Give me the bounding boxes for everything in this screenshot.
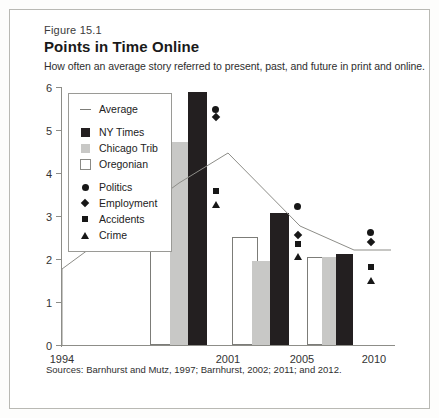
- legend-label-chicago-trib: Chicago Trib: [99, 142, 158, 154]
- diamond-key-icon: [77, 200, 93, 206]
- triangle-key-icon: [77, 232, 93, 239]
- black-square-key-icon: [77, 128, 93, 137]
- marker-2005-crime: [294, 253, 302, 260]
- x-tick-label-2010: 2010: [344, 353, 404, 365]
- marker-2005-accidents: [295, 241, 301, 247]
- legend-label-ny-times: NY Times: [99, 126, 144, 138]
- figure-source-note: Sources: Barnhurst and Mutz, 1997; Barnh…: [46, 364, 342, 375]
- legend-item-ny-times: NY Times: [77, 124, 163, 140]
- legend-item-crime: Crime: [77, 227, 163, 243]
- marker-2001-crime: [212, 201, 220, 208]
- legend-label-crime: Crime: [99, 229, 127, 241]
- figure-number: Figure 15.1: [44, 24, 102, 36]
- legend-label-employment: Employment: [99, 197, 157, 209]
- marker-2010-accidents: [368, 264, 374, 270]
- chart-legend: Average NY Times Chicago Trib Oregonian …: [68, 93, 172, 252]
- marker-2010-crime: [367, 277, 375, 284]
- small-square-key-icon: [77, 216, 93, 222]
- marker-2005-politics: [294, 203, 301, 210]
- legend-label-politics: Politics: [99, 181, 132, 193]
- marker-2010-politics: [367, 229, 374, 236]
- gray-square-key-icon: [77, 144, 93, 153]
- line-key-icon: [77, 109, 93, 110]
- legend-label-average: Average: [99, 103, 138, 115]
- white-square-key-icon: [77, 159, 93, 170]
- marker-2001-accidents: [213, 188, 219, 194]
- legend-label-oregonian: Oregonian: [99, 158, 148, 170]
- circle-key-icon: [77, 184, 93, 191]
- legend-item-accidents: Accidents: [77, 211, 163, 227]
- legend-item-chicago-trib: Chicago Trib: [77, 140, 163, 156]
- legend-item-employment: Employment: [77, 195, 163, 211]
- legend-label-accidents: Accidents: [99, 213, 145, 225]
- legend-item-politics: Politics: [77, 179, 163, 195]
- figure-subtitle: How often an average story referred to p…: [44, 60, 425, 72]
- legend-item-average: Average: [77, 101, 163, 117]
- figure-title: Points in Time Online: [44, 38, 199, 55]
- legend-item-oregonian: Oregonian: [77, 156, 163, 172]
- figure-page: Figure 15.1 Points in Time Online How of…: [0, 0, 439, 418]
